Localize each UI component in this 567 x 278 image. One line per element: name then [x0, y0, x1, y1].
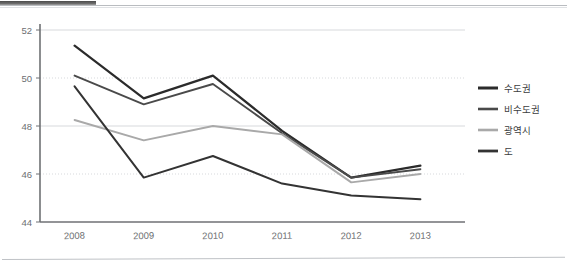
- page-root: 4446485052 200820092010201120122013 수도권비…: [0, 0, 567, 278]
- legend-label-3[interactable]: 도: [504, 146, 513, 157]
- y-tick-label-44: 44: [21, 217, 32, 228]
- y-tick-label-46: 46: [21, 169, 32, 180]
- y-tick-label-48: 48: [21, 121, 32, 132]
- x-tick-label-2009: 2009: [133, 230, 155, 242]
- x-tick-label-2013: 2013: [410, 230, 432, 242]
- axis-lines-group: [40, 24, 465, 222]
- x-tick-label-2012: 2012: [340, 230, 362, 242]
- series-line-0: [75, 46, 421, 178]
- y-tick-label-52: 52: [21, 25, 32, 36]
- x-tick-label-2011: 2011: [272, 230, 293, 242]
- bottom-divider-rule: [2, 257, 565, 260]
- gridlines-group: [40, 30, 465, 174]
- line-chart: 4446485052 200820092010201120122013 수도권비…: [0, 8, 567, 256]
- legend-label-1[interactable]: 비수도권: [504, 104, 540, 115]
- series-line-2: [75, 120, 421, 182]
- data-series-group: [75, 46, 421, 200]
- series-line-1: [75, 76, 421, 178]
- legend-label-2[interactable]: 광역시: [504, 125, 531, 136]
- legend-label-0[interactable]: 수도권: [504, 83, 531, 94]
- top-divider-rule: [0, 5, 567, 6]
- x-tick-label-2008: 2008: [64, 230, 86, 242]
- chart-legend: 수도권비수도권광역시도: [478, 83, 540, 157]
- x-axis-ticks-group: 200820092010201120122013: [64, 230, 431, 242]
- y-tick-label-50: 50: [21, 73, 32, 84]
- chart-canvas: 4446485052 200820092010201120122013 수도권비…: [0, 8, 567, 256]
- x-tick-label-2010: 2010: [202, 230, 224, 242]
- y-axis-ticks-group: 4446485052: [21, 25, 40, 228]
